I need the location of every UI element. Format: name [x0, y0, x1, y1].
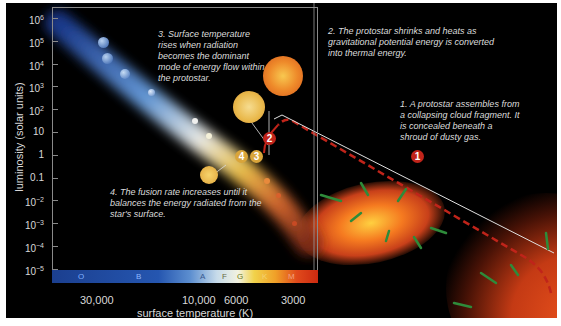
ytick-mark: [52, 64, 58, 65]
spectral-class-m: M: [288, 271, 295, 282]
ytick-mark: [52, 18, 58, 19]
ytick-mark: [52, 132, 58, 133]
spectral-class-k: K: [262, 271, 267, 282]
ytick-1e6: 106: [6, 13, 44, 26]
step-badge-1: 1: [411, 150, 424, 163]
ytick-1e-4: 10−4: [6, 241, 44, 254]
spectral-class-f: F: [222, 271, 227, 282]
annotation-step-1: 1. A protostar assembles from a collapsi…: [400, 99, 520, 143]
ytick-1e4: 104: [6, 59, 44, 72]
ytick-1e2: 102: [6, 104, 44, 117]
x-axis-label: surface temperature (K): [120, 307, 270, 318]
ytick-mark: [52, 41, 58, 42]
ytick-1: 1: [6, 150, 44, 160]
ytick-1e3: 103: [6, 81, 44, 94]
spectral-class-a: A: [200, 271, 205, 282]
ytick-mark: [52, 155, 58, 156]
ytick-mark: [52, 200, 58, 201]
annotation-step-2: 2. The protostar shrinks and heats as gr…: [328, 26, 498, 59]
ytick-0-1: 0.1: [6, 173, 44, 183]
ytick-1e-5: 10−5: [6, 264, 44, 277]
spectral-class-g: G: [237, 271, 243, 282]
ytick-mark: [52, 109, 58, 110]
xtick-10000: 10,000: [182, 294, 216, 306]
y-axis-label: luminosity (solar units): [13, 62, 25, 212]
spectral-class-b: B: [136, 271, 141, 282]
ytick-mark: [52, 178, 58, 179]
ytick-1e-2: 10−2: [6, 195, 44, 208]
xtick-30000: 30,000: [80, 294, 114, 306]
ytick-1e5: 105: [6, 36, 44, 49]
ytick-mark: [52, 223, 58, 224]
xtick-6000: 6000: [224, 294, 248, 306]
spectral-class-bar: [52, 270, 318, 283]
diagram-frame: 1 2 3 4 3. Surface temperature rises whe…: [6, 3, 557, 318]
ytick-1e-3: 10−3: [6, 218, 44, 231]
xtick-3000: 3000: [281, 294, 305, 306]
ytick-mark: [52, 246, 58, 247]
plot-area: [52, 7, 318, 283]
spectral-class-o: O: [78, 271, 84, 282]
ytick-10: 10: [6, 127, 44, 137]
ytick-mark: [52, 86, 58, 87]
